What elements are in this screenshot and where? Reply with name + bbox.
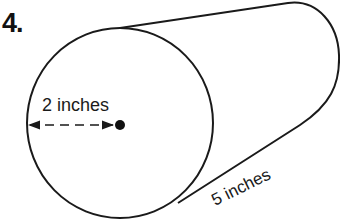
radius-label: 2 inches bbox=[42, 95, 109, 115]
cylinder-diagram: 2 inches 5 inches bbox=[0, 0, 340, 220]
problem-figure: 4. 2 inches 5 inches bbox=[0, 0, 340, 220]
length-label: 5 inches bbox=[208, 165, 273, 210]
center-point-icon bbox=[115, 120, 125, 130]
